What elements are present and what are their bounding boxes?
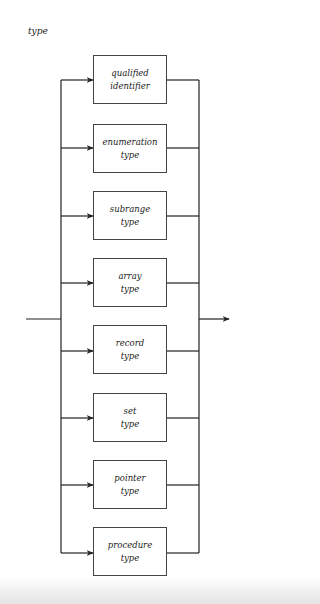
box-label-line1: set bbox=[124, 405, 137, 418]
box-label-line2: identifier bbox=[110, 80, 150, 93]
box-label-line2: type bbox=[121, 283, 140, 296]
box-record-type: record type bbox=[93, 325, 167, 374]
box-label-line2: type bbox=[121, 216, 140, 229]
box-subrange-type: subrange type bbox=[93, 191, 167, 240]
box-label-line1: subrange bbox=[110, 203, 150, 216]
box-label-line2: type bbox=[121, 149, 140, 162]
box-label-line1: pointer bbox=[114, 472, 145, 485]
box-qualified-identifier: qualified identifier bbox=[93, 55, 167, 104]
box-label-line2: type bbox=[121, 552, 140, 565]
box-label-line1: record bbox=[116, 337, 144, 350]
box-label-line1: enumeration bbox=[103, 136, 158, 149]
box-label-line1: qualified bbox=[111, 67, 149, 80]
box-procedure-type: procedure type bbox=[93, 527, 167, 576]
box-set-type: set type bbox=[93, 393, 167, 442]
box-array-type: array type bbox=[93, 258, 167, 307]
box-label-line2: type bbox=[121, 418, 140, 431]
box-enumeration-type: enumeration type bbox=[93, 124, 167, 173]
box-label-line2: type bbox=[121, 485, 140, 498]
box-pointer-type: pointer type bbox=[93, 460, 167, 509]
box-label-line1: array bbox=[118, 270, 141, 283]
box-label-line1: procedure bbox=[108, 539, 152, 552]
box-label-line2: type bbox=[121, 350, 140, 363]
